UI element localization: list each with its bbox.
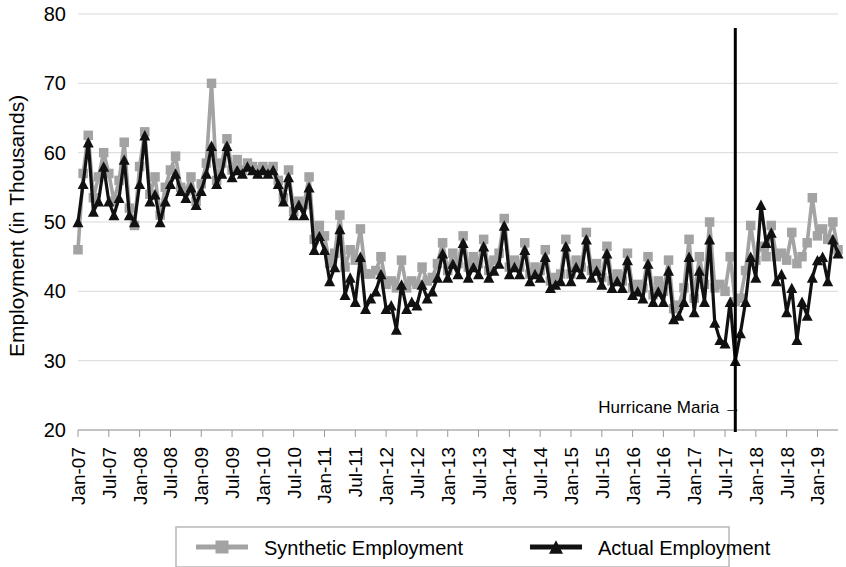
x-tick-label: Jan-17 — [684, 447, 705, 505]
x-tick-label: Jan-12 — [376, 447, 397, 505]
x-tick-label: Jan-18 — [746, 447, 767, 505]
data-point-marker — [315, 221, 325, 231]
data-point-marker — [78, 179, 89, 189]
x-tick-label: Jul-16 — [653, 447, 674, 499]
data-point-marker — [776, 269, 787, 279]
data-point-marker — [298, 210, 309, 220]
data-point-marker — [309, 245, 320, 255]
data-point-marker — [791, 335, 802, 345]
data-point-marker — [705, 217, 715, 227]
y-tick-label: 30 — [44, 350, 66, 372]
data-point-marker — [99, 148, 109, 158]
x-tick-label: Jan-16 — [623, 447, 644, 505]
hurricane-maria-annotation: Hurricane Maria → — [598, 398, 741, 417]
employment-chart: 80706050403020 Jan-07Jul-07Jan-08Jul-08J… — [0, 0, 846, 567]
x-tick-label: Jul-08 — [160, 447, 181, 499]
data-point-marker — [689, 307, 700, 317]
data-point-marker — [684, 235, 694, 245]
chart-legend: Synthetic EmploymentActual Employment — [176, 527, 771, 567]
data-point-marker — [186, 172, 196, 182]
data-point-marker — [684, 251, 695, 261]
data-point-marker — [448, 248, 458, 258]
data-point-marker — [746, 221, 756, 231]
data-point-marker — [781, 307, 792, 317]
data-point-marker — [818, 224, 828, 234]
x-tick-label: Jan-11 — [314, 447, 335, 504]
x-tick-label: Jul-17 — [715, 447, 736, 499]
data-point-marker — [699, 297, 710, 307]
x-tick-label: Jan-09 — [191, 447, 212, 505]
data-point-marker — [119, 138, 129, 148]
x-tick-label: Jul-14 — [530, 447, 551, 499]
data-point-marker — [786, 283, 797, 293]
y-tick-label: 70 — [44, 72, 66, 94]
series-actual-employment — [73, 130, 844, 366]
data-point-marker — [391, 324, 402, 334]
data-point-marker — [828, 217, 838, 227]
data-point-marker — [108, 210, 119, 220]
data-point-marker — [761, 252, 771, 262]
data-point-marker — [150, 172, 160, 182]
data-point-marker — [750, 272, 761, 282]
data-point-marker — [88, 206, 99, 216]
data-point-marker — [725, 252, 735, 262]
data-point-marker — [453, 269, 464, 279]
data-point-marker — [797, 252, 807, 262]
data-point-marker — [356, 224, 366, 234]
x-tick-label: Jul-13 — [469, 447, 490, 499]
y-axis-title: Employment (in Thousands) — [5, 95, 28, 357]
data-point-marker — [324, 276, 335, 286]
data-point-marker — [171, 151, 181, 161]
data-point-marker — [755, 199, 766, 209]
data-point-marker — [664, 255, 674, 265]
data-point-marker — [417, 262, 427, 272]
data-point-marker — [709, 317, 720, 327]
data-point-marker — [334, 224, 345, 234]
data-point-marker — [397, 255, 407, 265]
y-tick-label: 80 — [44, 3, 66, 25]
y-axis-tick-labels-group: 80706050403020 — [44, 3, 66, 441]
data-point-marker — [822, 276, 833, 286]
y-tick-label: 20 — [44, 419, 66, 441]
x-tick-label: Jan-14 — [499, 447, 520, 506]
legend-label: Synthetic Employment — [264, 537, 463, 559]
x-tick-label: Jul-12 — [407, 447, 428, 499]
data-point-marker — [376, 252, 386, 262]
data-point-marker — [797, 297, 808, 307]
data-point-marker — [817, 251, 828, 261]
data-point-marker — [695, 252, 705, 262]
chart-canvas: 80706050403020 Jan-07Jul-07Jan-08Jul-08J… — [0, 0, 846, 567]
legend-label: Actual Employment — [598, 537, 771, 559]
data-point-marker — [782, 255, 792, 265]
x-tick-label: Jan-13 — [438, 447, 459, 505]
data-point-marker — [654, 276, 664, 286]
x-tick-label: Jan-19 — [807, 447, 828, 505]
gridlines-group — [78, 14, 838, 430]
data-point-marker — [720, 287, 730, 297]
x-tick-label: Jul-18 — [777, 447, 798, 499]
x-tick-label: Jan-15 — [561, 447, 582, 505]
data-point-marker — [463, 272, 474, 282]
data-point-marker — [304, 172, 314, 182]
data-point-marker — [350, 297, 361, 307]
x-tick-label: Jan-10 — [253, 447, 274, 505]
y-tick-label: 40 — [44, 280, 66, 302]
x-tick-label: Jan-08 — [130, 447, 151, 505]
y-tick-label: 50 — [44, 211, 66, 233]
data-point-marker — [232, 155, 242, 165]
x-tick-label: Jul-10 — [284, 447, 305, 499]
data-point-marker — [802, 238, 812, 248]
data-point-marker — [345, 245, 355, 255]
data-point-marker — [360, 303, 371, 313]
data-point-marker — [73, 245, 83, 255]
data-point-marker — [808, 193, 818, 203]
x-axis-ticks-group — [78, 430, 817, 437]
x-tick-label: Jan-07 — [68, 447, 89, 505]
data-point-marker — [345, 272, 356, 282]
data-point-marker — [216, 541, 229, 554]
data-point-marker — [207, 79, 217, 89]
data-point-marker — [335, 210, 345, 220]
data-point-marker — [438, 238, 448, 248]
data-point-marker — [802, 310, 813, 320]
data-point-marker — [658, 297, 669, 307]
